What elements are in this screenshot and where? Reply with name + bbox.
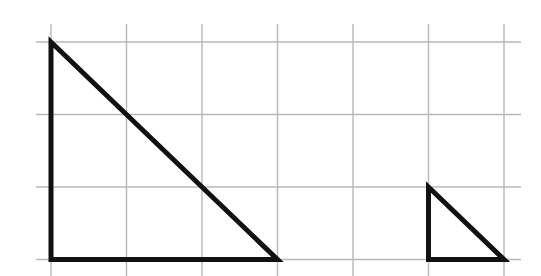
large-right-triangle [51,42,278,260]
grid-diagram [0,0,541,276]
grid [36,24,521,276]
small-right-triangle [429,187,505,260]
